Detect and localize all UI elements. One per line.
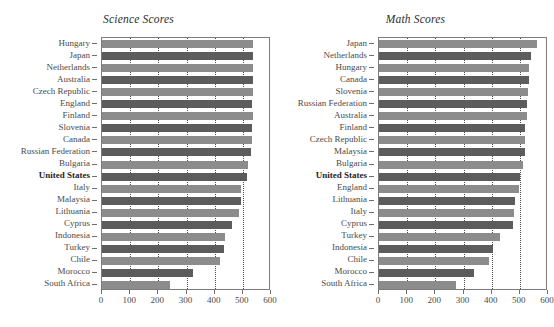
plot-area-math	[378, 37, 547, 290]
bar-row	[379, 88, 528, 96]
y-axis-label: Russian Federation	[298, 99, 367, 108]
y-tick	[369, 127, 374, 128]
y-axis-label: Canada	[63, 135, 90, 144]
plot-area-science	[101, 37, 270, 290]
chart-title-science: Science Scores	[0, 13, 277, 25]
y-axis-label: Chile	[71, 255, 91, 264]
panel-science-scores: Science Scores HungaryJapanNetherlandsAu…	[0, 0, 277, 327]
y-axis-label: Morocco	[58, 267, 91, 276]
y-tick	[369, 200, 374, 201]
x-tick-label: 0	[99, 295, 104, 305]
x-tick	[519, 290, 520, 294]
bar-row	[102, 136, 252, 144]
y-tick	[369, 67, 374, 68]
bar-row	[379, 161, 523, 169]
y-axis-label: England	[60, 99, 90, 108]
x-tick	[157, 290, 158, 294]
x-tick	[186, 290, 187, 294]
bar	[379, 124, 525, 132]
y-tick	[369, 224, 374, 225]
x-tick-label: 500	[235, 295, 249, 305]
y-tick	[92, 91, 97, 92]
bar	[102, 173, 247, 181]
bar	[379, 112, 527, 120]
y-tick	[369, 260, 374, 261]
x-tick-label: 600	[540, 295, 554, 305]
bar	[379, 76, 529, 84]
y-axis-label: Finland	[62, 111, 90, 120]
bar	[379, 52, 531, 60]
bar-row	[379, 281, 456, 289]
x-axis-science: 0100200300400500600	[101, 290, 270, 312]
bar	[379, 185, 519, 193]
x-tick	[378, 290, 379, 294]
bar-row	[102, 185, 241, 193]
y-tick	[369, 79, 374, 80]
y-tick	[92, 224, 97, 225]
y-axis-label: Italy	[74, 183, 91, 192]
bar	[102, 185, 241, 193]
y-tick	[92, 200, 97, 201]
y-axis-label: Malaysia	[57, 195, 90, 204]
bar	[102, 269, 193, 277]
y-tick	[92, 115, 97, 116]
bar-row	[102, 281, 170, 289]
y-tick	[369, 212, 374, 213]
y-axis-label: Cyprus	[64, 219, 90, 228]
bar-row	[102, 100, 252, 108]
bar-row	[102, 209, 239, 217]
y-tick	[92, 43, 97, 44]
bar-row	[379, 173, 520, 181]
x-tick	[214, 290, 215, 294]
x-tick	[270, 290, 271, 294]
y-axis-label: Morocco	[335, 267, 368, 276]
y-axis-label: Russian Federation	[21, 147, 90, 156]
y-axis-label: Bulgaria	[59, 159, 90, 168]
y-tick	[369, 248, 374, 249]
bar	[379, 40, 537, 48]
x-tick-label: 600	[263, 295, 277, 305]
bar-row	[379, 221, 513, 229]
bar	[379, 197, 515, 205]
x-tick	[101, 290, 102, 294]
y-tick	[369, 151, 374, 152]
bar-row	[102, 148, 251, 156]
bars-science	[102, 38, 269, 289]
bar-row	[102, 245, 224, 253]
y-tick	[369, 164, 374, 165]
bar	[102, 64, 253, 72]
bar-row	[102, 197, 241, 205]
y-axis-label: Indonesia	[55, 231, 90, 240]
bar	[379, 269, 474, 277]
y-axis-label: Japan	[70, 51, 91, 60]
bar	[102, 209, 239, 217]
y-tick	[92, 284, 97, 285]
bar-row	[379, 148, 525, 156]
y-tick	[92, 55, 97, 56]
x-tick-label: 200	[428, 295, 442, 305]
bar	[379, 233, 500, 241]
bar	[102, 100, 252, 108]
y-axis-label: Canada	[340, 75, 367, 84]
bar-row	[379, 233, 500, 241]
y-axis-label: Lithuania	[333, 195, 368, 204]
y-tick	[92, 260, 97, 261]
bar	[379, 88, 528, 96]
bar-row	[102, 112, 253, 120]
bar-row	[102, 76, 253, 84]
chart-title-math: Math Scores	[277, 13, 554, 25]
x-tick-label: 500	[512, 295, 526, 305]
bar-row	[102, 173, 247, 181]
bar	[379, 209, 514, 217]
bar-row	[102, 88, 253, 96]
y-axis-label: Hungary	[336, 63, 368, 72]
bar	[102, 221, 232, 229]
y-axis-label: Czech Republic	[310, 135, 367, 144]
y-axis-label: Indonesia	[332, 243, 367, 252]
bar-row	[102, 257, 220, 265]
y-axis-label: Hungary	[59, 39, 91, 48]
y-tick	[92, 188, 97, 189]
y-tick	[92, 212, 97, 213]
y-axis-label: Slovenia	[336, 87, 368, 96]
bar-row	[102, 52, 253, 60]
